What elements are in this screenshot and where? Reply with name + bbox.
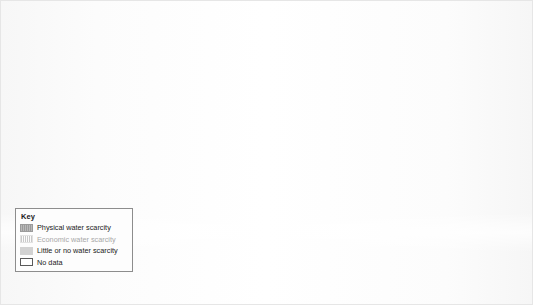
- island-dot-3: [522, 200, 524, 202]
- region-poland: [291, 90, 311, 105]
- legend-item-little-or-no-water-scarcity: Little or no water scarcity: [20, 245, 128, 256]
- island-dot-1: [498, 158, 500, 160]
- legend-item-physical-water-scarcity: Physical water scarcity: [20, 222, 128, 233]
- legend-item-no-data: No data: [20, 257, 128, 268]
- little-or-no-water-scarcity-swatch: [20, 247, 33, 255]
- legend-title: Key: [21, 212, 128, 221]
- world-water-scarcity-map-screenshot: Key Physical water scarcity Economic wat…: [0, 0, 533, 305]
- legend-label-physical: Physical water scarcity: [37, 223, 111, 232]
- legend-item-economic-water-scarcity: Economic water scarcity: [20, 234, 128, 245]
- legend-label-little: Little or no water scarcity: [37, 246, 118, 255]
- island-dot-4: [505, 210, 507, 212]
- island-dot-6: [370, 208, 372, 210]
- physical-water-scarcity-swatch: [20, 224, 33, 232]
- island-dot-5: [262, 176, 264, 178]
- economic-water-scarcity-swatch: [20, 235, 33, 243]
- island-dot-2: [512, 166, 514, 168]
- legend-label-no-data: No data: [37, 258, 63, 267]
- legend-label-economic: Economic water scarcity: [37, 235, 116, 244]
- map-legend: Key Physical water scarcity Economic wat…: [15, 208, 133, 272]
- no-data-swatch: [20, 258, 33, 266]
